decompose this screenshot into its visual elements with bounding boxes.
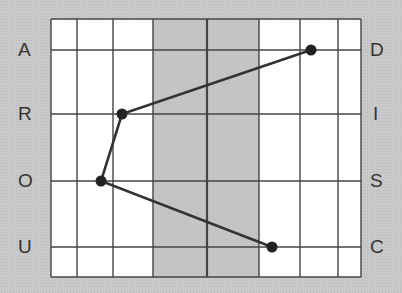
grid-column (51, 19, 77, 277)
right-label-s: S (370, 171, 383, 190)
grid-column (338, 19, 361, 277)
grid-column (259, 19, 300, 277)
path-point (96, 176, 107, 187)
left-label-u: U (18, 237, 32, 256)
grid-column (77, 19, 113, 277)
path-point (267, 242, 278, 253)
right-label-c: C (370, 237, 384, 256)
path-point (306, 45, 317, 56)
right-label-i: I (373, 104, 378, 123)
grid-column (300, 19, 338, 277)
grid-column (153, 19, 207, 277)
left-label-r: R (18, 104, 32, 123)
right-label-d: D (370, 40, 384, 59)
left-label-a: A (18, 40, 31, 59)
grid-column (113, 19, 153, 277)
left-label-o: O (18, 171, 33, 190)
path-point (117, 109, 128, 120)
grid-diagram (0, 0, 402, 293)
